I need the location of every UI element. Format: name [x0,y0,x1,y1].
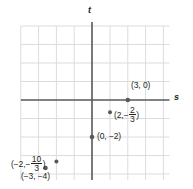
point-label-2-neg2-3: (2,−23) [114,106,139,124]
point-label-2-neg2-3-suffix: ) [136,111,139,120]
point-label-neg2-neg10-3-minus: − [25,160,30,169]
point-2-neg2-3 [108,110,112,114]
point-label-2-neg2-3-prefix: (2, [114,111,124,120]
point-neg2-neg10-3 [54,160,58,164]
fraction-numerator: 2 [129,106,136,115]
fraction-2-3: 23 [129,106,136,124]
point-label-neg2-neg10-3-prefix: (−2, [11,160,25,169]
point-0-neg2 [90,135,95,140]
fraction-numerator: 10 [31,155,42,164]
point-label-0-neg2: (0, −2) [97,132,121,141]
axis-label-t: t [88,6,91,15]
point-label-3-0: (3, 0) [131,81,150,90]
fraction-denominator: 3 [129,114,136,124]
point-label-2-neg2-3-minus: − [124,111,129,120]
point-3-0 [126,98,131,103]
point-label-neg3-neg4: (−3, −4) [21,172,50,181]
point-label-neg2-neg10-3-suffix: ) [43,160,46,169]
axis-label-s: s [174,93,179,102]
